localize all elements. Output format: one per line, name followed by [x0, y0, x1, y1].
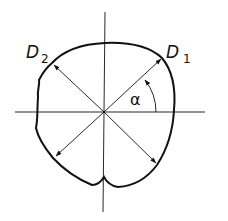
diameter-d1-line — [56, 59, 161, 156]
svg-text:2: 2 — [41, 52, 49, 66]
label-alpha: α — [130, 90, 141, 109]
diagram-canvas: D 2 D 1 α — [0, 0, 228, 221]
svg-text:D: D — [166, 42, 179, 62]
label-d1: D 1 — [166, 42, 191, 66]
angle-alpha-arc — [145, 80, 156, 112]
label-d2: D 2 — [26, 42, 49, 66]
profile-outline — [36, 43, 175, 187]
diameter-d2-line — [54, 65, 156, 163]
svg-text:α: α — [130, 90, 141, 109]
svg-text:1: 1 — [183, 52, 191, 66]
svg-text:D: D — [26, 42, 39, 62]
